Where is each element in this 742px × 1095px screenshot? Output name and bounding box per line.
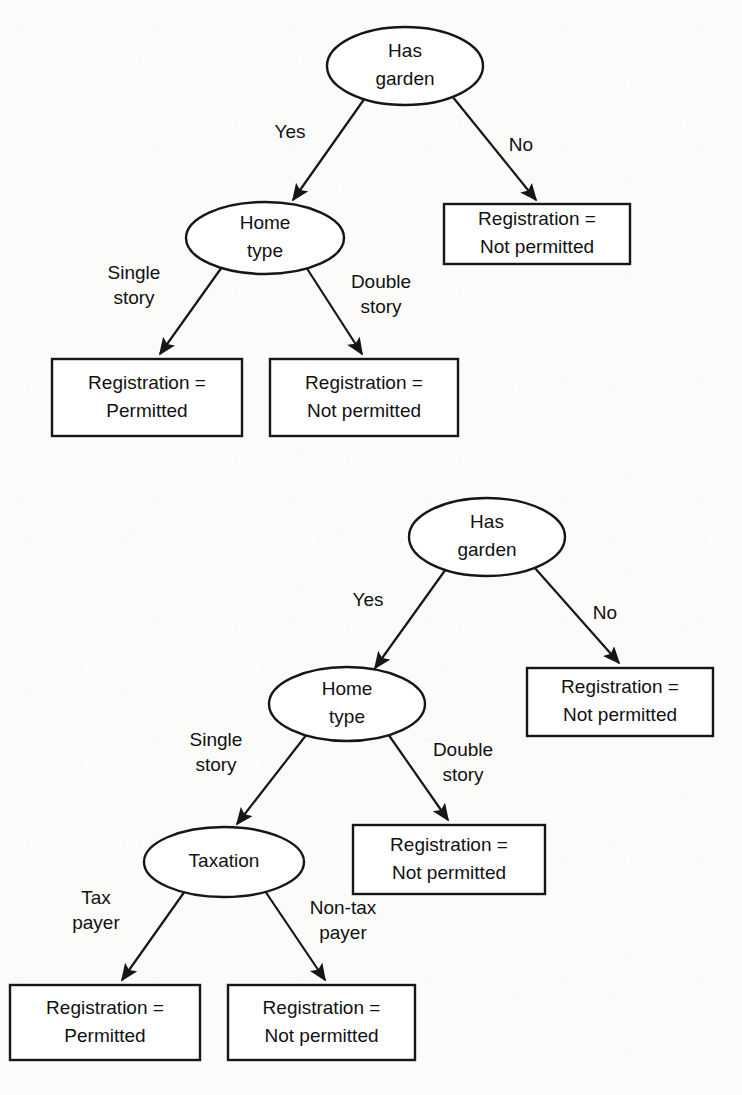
node-label: Taxation xyxy=(189,850,260,871)
node-label-home-type-line-2: type xyxy=(247,240,283,261)
node-label-registration-permitted-line-2: Permitted xyxy=(64,1025,145,1046)
tree-1: YesNoSinglestoryDoublestoryHasgardenRegi… xyxy=(52,27,630,436)
node-registration-permitted-outcome[interactable]: Registration =Permitted xyxy=(52,359,242,436)
node-label-registration-not-permitted-line-1: Registration = xyxy=(561,676,679,697)
edge-label-no-line-1: No xyxy=(593,602,617,623)
node-label-registration-not-permitted-line-2: Not permitted xyxy=(264,1025,378,1046)
edge-label: Yes xyxy=(275,121,306,142)
edge-label: No xyxy=(509,134,533,155)
node-label-registration-permitted-line-2: Permitted xyxy=(106,400,187,421)
node-registration-permitted-outcome[interactable]: Registration =Permitted xyxy=(10,985,200,1060)
node-registration-not-permitted-outcome[interactable]: Registration =Not permitted xyxy=(444,204,630,264)
edge-tax-payer-2: Taxpayer xyxy=(72,887,185,980)
node-has-garden-decision[interactable]: Hasgarden xyxy=(327,27,483,105)
node-label-registration-not-permitted-line-2: Not permitted xyxy=(480,236,594,257)
edge-yes-2: Yes xyxy=(353,569,447,668)
decision-tree-diagram: YesNoSinglestoryDoublestoryHasgardenRegi… xyxy=(0,0,742,1095)
node-label-registration-permitted-line-1: Registration = xyxy=(88,372,206,393)
node-label-registration-not-permitted-line-1: Registration = xyxy=(305,372,423,393)
edge-label-single-story-line-1: Single xyxy=(190,729,243,750)
node-label-home-type-line-1: Home xyxy=(322,678,373,699)
edge-label-double-story-line-1: Double xyxy=(351,271,411,292)
decision-ellipse xyxy=(409,498,565,576)
node-label-registration-not-permitted-line-1: Registration = xyxy=(263,997,381,1018)
node-label-registration-not-permitted-line-2: Not permitted xyxy=(307,400,421,421)
edge-arrow xyxy=(375,569,446,668)
edge-label: No xyxy=(593,602,617,623)
edge-label-tax-payer-line-1: Tax xyxy=(81,887,111,908)
edge-label-double-story-line-2: story xyxy=(360,296,402,317)
node-registration-not-permitted-outcome[interactable]: Registration =Not permitted xyxy=(228,985,415,1060)
edge-label: Doublestory xyxy=(351,271,411,317)
node-label-home-type-line-1: Home xyxy=(240,212,291,233)
node-label-has-garden-line-1: Has xyxy=(470,511,504,532)
edge-double-story-2: Doublestory xyxy=(388,734,493,820)
edge-label-double-story-line-1: Double xyxy=(433,739,493,760)
edge-arrow xyxy=(237,734,307,824)
edge-label-non-tax-payer-line-2: payer xyxy=(319,922,367,943)
edge-label-non-tax-payer-line-1: Non-tax xyxy=(310,897,377,918)
edge-label-double-story-line-2: story xyxy=(442,764,484,785)
node-label-registration-not-permitted-line-1: Registration = xyxy=(390,834,508,855)
node-label-registration-not-permitted-line-1: Registration = xyxy=(478,208,596,229)
node-has-garden-decision[interactable]: Hasgarden xyxy=(409,498,565,576)
edge-arrow xyxy=(160,267,222,354)
edge-no-2: No xyxy=(534,567,619,663)
edge-single-story-2: Singlestory xyxy=(190,729,307,824)
node-label-registration-not-permitted-line-2: Not permitted xyxy=(392,862,506,883)
edge-label-yes-line-1: Yes xyxy=(353,589,384,610)
edge-label-yes-line-1: Yes xyxy=(275,121,306,142)
decision-ellipse xyxy=(327,27,483,105)
node-label-has-garden-line-2: garden xyxy=(375,68,434,89)
edge-non-tax-payer-2: Non-taxpayer xyxy=(265,891,377,980)
edge-label-tax-payer-line-2: payer xyxy=(72,912,120,933)
node-label-registration-permitted-line-1: Registration = xyxy=(46,997,164,1018)
node-label-has-garden-line-2: garden xyxy=(457,539,516,560)
node-registration-not-permitted-outcome[interactable]: Registration =Not permitted xyxy=(270,359,458,436)
edge-arrow xyxy=(122,891,185,980)
edge-label: Yes xyxy=(353,589,384,610)
edge-arrow xyxy=(293,98,365,200)
edge-label: Singlestory xyxy=(108,262,161,308)
edge-label-no-line-1: No xyxy=(509,134,533,155)
edge-yes-1: Yes xyxy=(275,98,366,200)
edge-label-single-story-line-2: story xyxy=(113,287,155,308)
node-home-type-decision[interactable]: Hometype xyxy=(186,202,344,274)
edge-double-story-1: Doublestory xyxy=(306,267,411,354)
edge-label-single-story-line-2: story xyxy=(195,754,237,775)
node-label-registration-not-permitted-line-2: Not permitted xyxy=(563,704,677,725)
edge-label: Doublestory xyxy=(433,739,493,785)
edge-label-single-story-line-1: Single xyxy=(108,262,161,283)
node-label-taxation-line-1: Taxation xyxy=(189,850,260,871)
edge-no-1: No xyxy=(452,96,536,200)
edge-label: Non-taxpayer xyxy=(310,897,377,943)
node-registration-not-permitted-outcome[interactable]: Registration =Not permitted xyxy=(353,825,545,894)
node-home-type-decision[interactable]: Hometype xyxy=(269,667,425,741)
node-label-has-garden-line-1: Has xyxy=(388,40,422,61)
edge-single-story-1: Singlestory xyxy=(108,262,222,354)
tree-2: YesNoSinglestoryDoublestoryTaxpayerNon-t… xyxy=(10,498,713,1060)
node-taxation-decision[interactable]: Taxation xyxy=(144,827,304,897)
edge-label: Singlestory xyxy=(190,729,243,775)
node-registration-not-permitted-outcome[interactable]: Registration =Not permitted xyxy=(527,668,713,736)
edge-label: Taxpayer xyxy=(72,887,120,933)
node-label-home-type-line-2: type xyxy=(329,706,365,727)
